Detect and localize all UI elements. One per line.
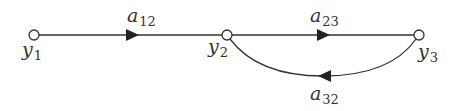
signal-flow-graph: a12 a23 a32 y1 y2 y3 [0,0,452,111]
edge-label-a32: a32 [310,82,339,107]
node-y3: y3 [414,30,438,65]
edge-a23: a23 [231,4,415,41]
edge-arc [230,39,416,76]
node-label-y1: y1 [21,38,42,63]
arrowhead-right-icon [126,29,139,41]
node-y1: y1 [21,30,42,63]
node-circle-icon [414,30,424,40]
node-circle-icon [222,30,232,40]
edge-label-a12: a12 [127,4,156,29]
arrowhead-right-icon [317,29,330,41]
edge-label-a23: a23 [310,4,339,29]
edge-a12: a12 [38,4,223,41]
arrowhead-left-icon [318,70,331,82]
node-label-y3: y3 [417,40,438,65]
edge-a32: a32 [230,39,416,107]
